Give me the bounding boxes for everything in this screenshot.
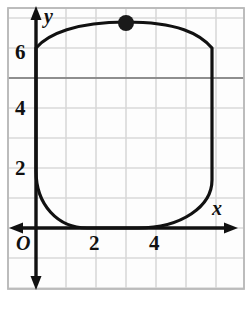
x-tick-label-2: 2 <box>89 233 100 254</box>
x-axis-label: x <box>212 198 222 218</box>
y-tick-label-6: 6 <box>15 42 26 63</box>
graph-figure: y x O 6 4 2 2 4 <box>0 0 252 310</box>
y-tick-label-4: 4 <box>15 98 26 119</box>
y-tick-label-2: 2 <box>15 158 26 179</box>
y-axis-label: y <box>44 6 53 26</box>
coordinate-graph <box>0 0 252 310</box>
marked-point <box>118 15 134 31</box>
origin-label: O <box>16 233 30 253</box>
x-tick-label-4: 4 <box>149 233 160 254</box>
